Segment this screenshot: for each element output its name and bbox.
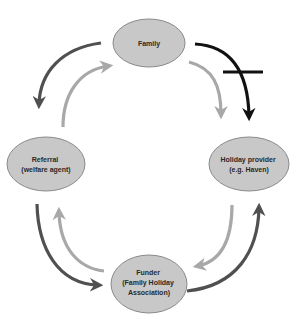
arrow-family-to-holiday-provider (189, 62, 221, 114)
node-holiday-provider-label-1: Holiday provider (220, 156, 276, 164)
node-holiday-provider: Holiday provider (e.g. Haven) (209, 137, 289, 191)
node-referral: Referral (welfare agent) (7, 137, 85, 191)
node-family: Family (113, 19, 185, 67)
node-referral-label-2: (welfare agent) (21, 166, 70, 174)
node-funder-label-1: Funder (136, 269, 160, 276)
arrow-funder-to-referral (59, 212, 104, 271)
arrow-referral-to-family (63, 66, 108, 127)
svg-text:Family: Family (138, 40, 160, 48)
node-holiday-provider-label-2: (e.g. Haven) (229, 166, 269, 174)
node-funder-label-3: Association) (128, 289, 170, 297)
arrow-holiday-provider-to-funder (198, 205, 232, 266)
cycle-diagram: Family Referral (welfare agent) Holiday … (0, 0, 290, 316)
node-referral-label-1: Referral (32, 156, 59, 163)
node-family-label: Family (138, 40, 160, 48)
node-funder: Funder (Family Holiday Association) (111, 255, 187, 313)
node-funder-label-2: (Family Holiday (122, 279, 174, 287)
